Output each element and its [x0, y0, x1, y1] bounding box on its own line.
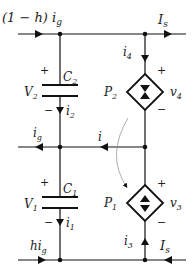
label-v3: v3	[170, 196, 182, 212]
node-bottom-right	[143, 258, 148, 263]
node-top-right	[143, 32, 148, 37]
c1-plus-sign: +	[40, 176, 49, 189]
p1-minus-sign: −	[157, 216, 166, 229]
c2-minus-sign: −	[44, 104, 53, 117]
label-c2: C2	[63, 70, 77, 86]
label-top-right-current: Is	[157, 12, 168, 29]
node-bottom-left	[58, 258, 63, 263]
label-i3: i3	[124, 234, 133, 250]
label-v1: V1	[24, 197, 38, 213]
arrow-right-icon	[38, 256, 46, 264]
label-i4: i4	[123, 45, 132, 61]
node-top-left	[58, 32, 63, 37]
node-mid-left	[58, 145, 63, 150]
arrow-right-icon	[164, 30, 172, 38]
arrow-left-icon	[35, 143, 43, 151]
label-i2: i2	[66, 104, 75, 120]
arrow-down-icon	[56, 219, 64, 226]
arrow-left-icon	[164, 256, 172, 264]
circuit-diagram: (1 − h) ig Is i4 + C2 V2 − i2 P2 + v4 − …	[0, 0, 196, 275]
c2-plus-sign: +	[40, 64, 49, 77]
c1-minus-sign: −	[44, 216, 53, 229]
arrow-up-icon	[141, 238, 149, 245]
label-bottom-left-current: hig	[30, 239, 47, 255]
p2-minus-sign: −	[157, 103, 166, 116]
p1-plus-sign: +	[157, 177, 166, 190]
label-bottom-right-current: Is	[159, 238, 170, 255]
label-top-left-current: (1 − h) ig	[2, 10, 62, 27]
coupling-arc	[116, 118, 128, 186]
label-mid-left-current: ig	[33, 126, 42, 142]
label-v2: V2	[24, 85, 38, 101]
label-p2: P2	[103, 85, 117, 101]
arrow-down-icon	[56, 107, 64, 114]
label-mid-current: i	[98, 130, 102, 144]
arrow-left-icon	[100, 143, 108, 151]
label-v4: v4	[170, 85, 182, 101]
arrow-right-icon	[35, 30, 43, 38]
label-c1: C1	[63, 182, 77, 198]
p2-plus-sign: +	[157, 64, 166, 77]
node-mid-right	[143, 145, 148, 150]
label-i1: i1	[66, 216, 75, 232]
label-p1: P1	[103, 196, 117, 212]
arrow-down-icon	[141, 55, 149, 62]
